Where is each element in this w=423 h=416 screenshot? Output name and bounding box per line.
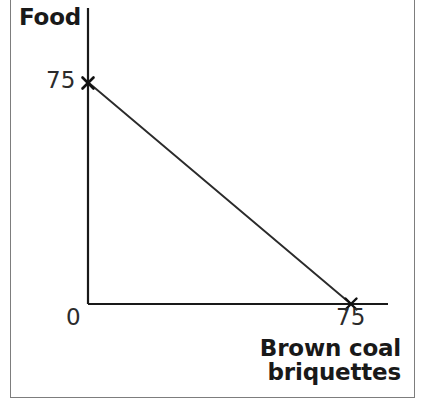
y-axis-tick-label-75: 75	[46, 69, 75, 92]
ppf-line	[89, 83, 351, 304]
x-axis-title: Brown coal briquettes	[260, 336, 401, 385]
y-axis-title: Food	[19, 5, 81, 29]
x-axis-tick-label-75: 75	[336, 306, 365, 329]
axis-origin-label-0: 0	[66, 306, 81, 329]
